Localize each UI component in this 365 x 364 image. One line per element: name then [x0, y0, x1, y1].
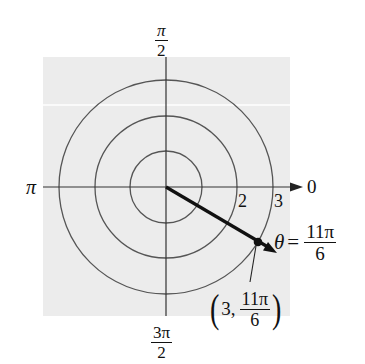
open-paren: (	[210, 289, 219, 329]
angle-fraction: 11π 6	[304, 222, 336, 263]
equals-sign: =	[287, 230, 299, 255]
angle-label: θ = 11π 6	[274, 222, 336, 263]
theta-symbol: θ	[274, 230, 284, 255]
point-marker	[254, 238, 263, 247]
coordinate-theta-fraction: 11π 6	[240, 290, 270, 329]
label-top-num: π	[155, 22, 168, 41]
coordinate-label: ( 3, 11π 6 )	[208, 289, 283, 329]
label-bottom-num: 3π	[151, 324, 172, 343]
label-bottom-num-text: 3π	[153, 323, 170, 342]
ring-label-3: 3	[274, 191, 283, 212]
label-pi: π	[26, 176, 36, 199]
polar-axis-arrowhead-icon	[290, 183, 303, 192]
angle-den: 6	[315, 243, 325, 263]
label-3pi-over-2: 3π 2	[151, 324, 172, 361]
close-paren: )	[272, 289, 281, 329]
label-bottom-den: 2	[157, 343, 166, 361]
label-top-den: 2	[157, 41, 166, 59]
ring-label-2: 2	[238, 191, 247, 212]
angle-num: 11π	[304, 222, 336, 243]
label-pi-over-2: π 2	[155, 22, 168, 59]
coordinate-r: 3,	[221, 298, 235, 320]
label-zero: 0	[307, 176, 317, 198]
coordinate-den: 6	[250, 310, 259, 329]
coordinate-num: 11π	[240, 290, 270, 310]
